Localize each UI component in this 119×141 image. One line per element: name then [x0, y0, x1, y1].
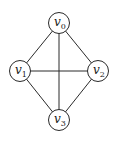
- node-v3: v3: [49, 110, 70, 131]
- node-label-subscript: 2: [100, 70, 105, 79]
- node-label-subscript: 1: [22, 70, 27, 79]
- node-label-subscript: 0: [61, 22, 66, 31]
- node-v2: v2: [88, 61, 109, 82]
- graph-diagram: v0v1v2v3: [0, 0, 119, 141]
- edges-group: [20, 23, 98, 120]
- node-v0: v0: [49, 13, 70, 34]
- node-v1: v1: [10, 61, 31, 82]
- node-label-subscript: 3: [61, 119, 66, 128]
